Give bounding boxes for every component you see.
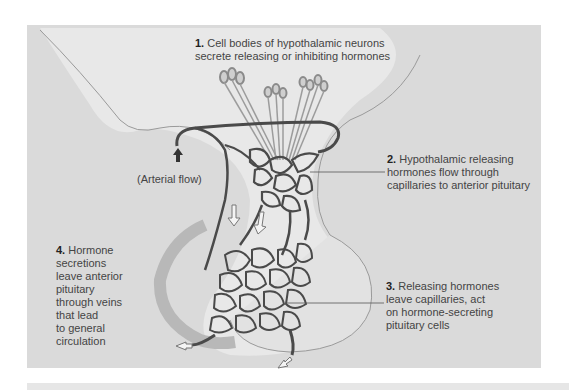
label-text: through veins <box>56 296 122 308</box>
label-text: hormones flow through <box>387 166 499 178</box>
label-text: on hormone-secreting <box>386 306 493 318</box>
label-step-4: 4. Hormone secretions leave anterior pit… <box>56 244 136 348</box>
arterial-flow-arrow-icon <box>173 148 183 162</box>
step-number: 1. <box>195 37 204 49</box>
label-step-1: 1. Cell bodies of hypothalamic neurons s… <box>195 37 455 63</box>
label-text: Hormone <box>68 244 113 256</box>
label-step-3: 3. Releasing hormones leave capillaries,… <box>386 280 526 332</box>
label-arterial-flow: (Arterial flow) <box>137 173 227 186</box>
label-text: secrete releasing or inhibiting hormones <box>195 50 390 62</box>
step-number: 3. <box>386 280 395 292</box>
label-text: Cell bodies of hypothalamic neurons <box>207 37 384 49</box>
step-number: 4. <box>56 244 65 256</box>
label-text: that lead <box>56 309 98 321</box>
label-step-2: 2. Hypothalamic releasing hormones flow … <box>387 153 547 192</box>
label-text: Hypothalamic releasing <box>399 153 513 165</box>
label-text: leave capillaries, act <box>386 293 485 305</box>
label-text: Releasing hormones <box>398 280 499 292</box>
label-text: circulation <box>56 335 106 347</box>
label-text: pituitary <box>56 283 95 295</box>
label-text: pituitary cells <box>386 319 450 331</box>
label-text: to general <box>56 322 105 334</box>
label-text: leave anterior <box>56 270 123 282</box>
label-text: secretions <box>56 257 106 269</box>
step-number: 2. <box>387 153 396 165</box>
label-text: capillaries to anterior pituitary <box>387 179 530 191</box>
